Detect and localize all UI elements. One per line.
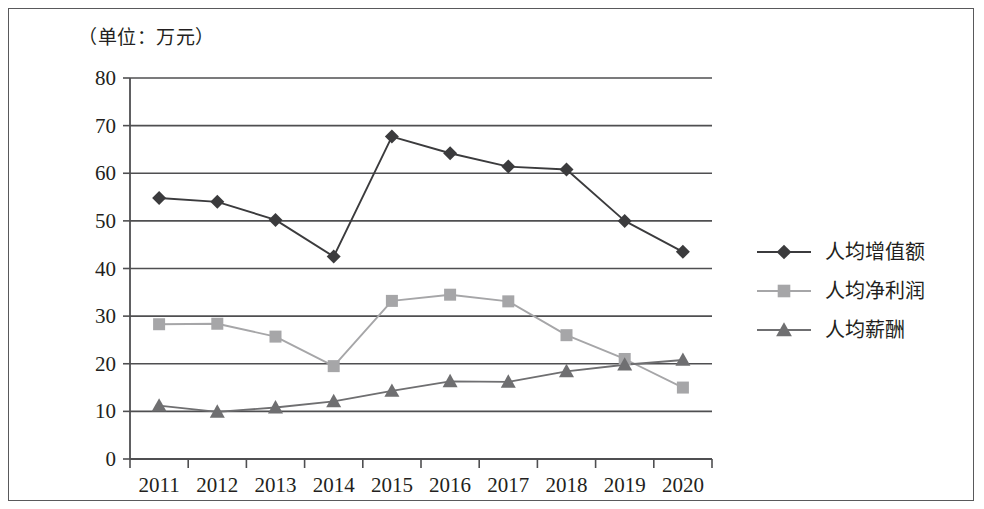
data-point <box>675 352 690 365</box>
legend-marker-square <box>778 285 791 298</box>
data-point <box>561 329 573 341</box>
data-point <box>386 295 398 307</box>
data-point <box>502 295 514 307</box>
x-axis-label: 2012 <box>196 473 238 497</box>
data-point <box>153 318 165 330</box>
legend-label-2: 人均净利润 <box>825 279 925 303</box>
data-point <box>210 195 224 209</box>
data-point <box>327 250 341 264</box>
data-point <box>152 398 167 411</box>
series-line-2 <box>159 295 683 388</box>
x-axis-label: 2013 <box>255 473 297 497</box>
line-chart: 0102030405060708020112012201320142015201… <box>0 0 984 509</box>
x-axis-label: 2011 <box>138 473 179 497</box>
data-point <box>211 318 223 330</box>
data-point <box>501 160 515 174</box>
x-axis-label: 2017 <box>487 473 529 497</box>
y-axis-label: 10 <box>95 399 116 423</box>
data-point <box>269 213 283 227</box>
y-axis-label: 40 <box>95 257 116 281</box>
y-axis-label: 0 <box>106 447 117 471</box>
data-point <box>270 331 282 343</box>
y-axis-label: 30 <box>95 304 116 328</box>
legend-label-1: 人均增值额 <box>825 240 925 264</box>
x-axis-label: 2015 <box>371 473 413 497</box>
series-line-3 <box>159 360 683 412</box>
x-axis-label: 2016 <box>429 473 471 497</box>
data-point <box>443 146 457 160</box>
x-axis-label: 2014 <box>313 473 356 497</box>
x-axis-label: 2018 <box>546 473 588 497</box>
series-line-1 <box>159 137 683 257</box>
x-axis-label: 2020 <box>662 473 704 497</box>
y-axis-label: 50 <box>95 209 116 233</box>
data-point <box>385 130 399 144</box>
data-point <box>444 289 456 301</box>
data-point <box>676 245 690 259</box>
legend-marker-diamond <box>777 245 792 260</box>
plot-area: 0102030405060708020112012201320142015201… <box>0 0 984 509</box>
y-axis-label: 20 <box>95 352 116 376</box>
legend-label-3: 人均薪酬 <box>825 318 905 342</box>
y-axis-label: 60 <box>95 161 116 185</box>
data-point <box>328 360 340 372</box>
data-point <box>677 382 689 394</box>
data-point <box>152 191 166 205</box>
y-axis-label: 70 <box>95 114 116 138</box>
chart-figure: （单位：万元） 01020304050607080201120122013201… <box>0 0 984 509</box>
y-axis-label: 80 <box>95 66 116 90</box>
x-axis-label: 2019 <box>604 473 646 497</box>
